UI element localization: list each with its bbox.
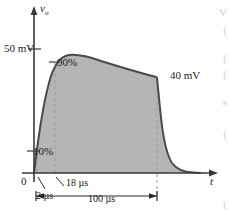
leader-line-18us [56,177,64,186]
y-axis-label: vo [40,3,48,17]
peak-voltage-label: 50 mV [4,43,34,54]
margin-fragment: ( [223,198,227,210]
waveform-figure: vo t 50 mV 90% 10% 40 mV 0 2 µs 18 µs 10… [0,0,229,212]
origin-label: 0 [21,176,27,187]
x-axis-label: t [210,176,213,187]
margin-fragment: ( [223,52,227,64]
margin-fragment: ( [223,68,227,80]
margin-fragment: ( [223,24,227,36]
margin-fragment: V [219,6,227,18]
rise-time-label: 2 µs [36,191,53,201]
margin-fragment: s [223,96,227,108]
waveform-plot [0,0,229,212]
pulse-width-label: 100 µs [88,194,115,204]
leader-line-2us [38,177,45,189]
margin-fragment: ( [223,128,227,140]
ninety-percent-label: 90% [57,57,77,68]
y-axis-arrowhead [31,6,38,15]
settle-time-label: 18 µs [66,178,88,188]
dimension-arrow-right [149,193,157,198]
ten-percent-label: 10% [33,146,53,157]
droop-voltage-label: 40 mV [170,70,200,81]
